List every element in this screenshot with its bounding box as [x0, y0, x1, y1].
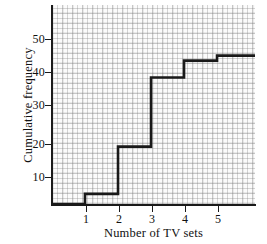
y-axis-title: Cumulative frequency	[21, 20, 35, 190]
x-axis-title: Number of TV sets	[52, 226, 255, 240]
y-axis-tick-20	[45, 144, 52, 145]
x-axis-line	[51, 204, 256, 206]
x-axis-label-1: 1	[76, 213, 96, 225]
plot-area	[52, 5, 255, 204]
x-axis-label-5: 5	[208, 213, 228, 225]
y-axis-tick-50	[45, 39, 52, 40]
x-axis-label-2: 2	[109, 213, 129, 225]
cumulative-frequency-chart: 50 40 30 20 10 1 2 3 4 5 Number of TV se…	[0, 0, 267, 244]
x-axis-label-3: 3	[142, 213, 162, 225]
step-line-series	[52, 5, 255, 204]
y-axis-tick-40	[45, 72, 52, 73]
x-axis-label-4: 4	[175, 213, 195, 225]
y-axis-tick-10	[45, 177, 52, 178]
y-axis-tick-30	[45, 105, 52, 106]
